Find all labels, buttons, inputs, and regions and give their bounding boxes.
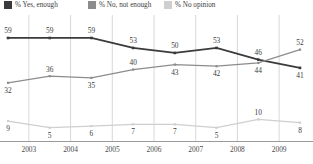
data-point-label: 9 xyxy=(6,124,10,133)
data-point-marker xyxy=(174,52,177,55)
data-point-marker xyxy=(49,75,51,77)
data-point-label: 36 xyxy=(46,65,54,74)
data-point-label: 42 xyxy=(213,69,221,78)
square-swatch-icon xyxy=(164,1,172,9)
data-point-marker xyxy=(7,37,10,40)
x-axis-tick-label: 2006 xyxy=(137,145,171,154)
data-point-label: 43 xyxy=(171,68,179,77)
data-point-marker xyxy=(215,127,217,129)
data-point-label: 46 xyxy=(255,48,263,57)
data-point-label: 5 xyxy=(215,131,219,140)
data-point-label: 44 xyxy=(255,66,263,75)
data-point-marker xyxy=(257,118,259,120)
data-point-marker xyxy=(215,65,217,67)
legend-label: % No, not enough xyxy=(99,1,151,9)
data-point-label: 59 xyxy=(88,26,96,35)
data-point-marker xyxy=(49,127,51,129)
data-point-marker xyxy=(90,37,93,40)
data-point-marker xyxy=(174,123,176,125)
x-axis-tick-label: 2008 xyxy=(220,145,254,154)
data-point-marker xyxy=(90,125,92,127)
x-axis-tick-label: 2005 xyxy=(95,145,129,154)
data-point-label: 35 xyxy=(88,81,96,90)
x-axis-tick-label: 2007 xyxy=(179,145,213,154)
square-swatch-icon xyxy=(4,1,12,9)
legend-item-yes-enough: % Yes, enough xyxy=(4,1,58,9)
data-point-label: 41 xyxy=(296,71,304,80)
data-point-label: 59 xyxy=(4,26,12,35)
data-point-marker xyxy=(132,68,134,70)
data-point-marker xyxy=(299,49,301,51)
data-point-marker xyxy=(7,82,9,84)
legend-label: % No opinion xyxy=(175,1,215,9)
x-axis-tick-label: 2003 xyxy=(12,145,46,154)
x-axis-labels: 2003200420052006200720082009 xyxy=(0,143,313,164)
data-point-label: 53 xyxy=(129,36,137,45)
data-point-label: 53 xyxy=(213,36,221,45)
x-axis-tick-label: 2009 xyxy=(262,145,296,154)
data-point-marker xyxy=(174,63,176,65)
data-point-label: 7 xyxy=(173,127,177,136)
data-point-marker xyxy=(90,77,92,79)
data-point-label: 7 xyxy=(131,127,135,136)
data-point-label: 59 xyxy=(46,26,54,35)
data-point-marker xyxy=(132,47,135,50)
data-point-marker xyxy=(215,47,218,50)
data-point-marker xyxy=(48,37,51,40)
legend-item-no-not-enough: % No, not enough xyxy=(88,1,151,9)
data-point-marker xyxy=(132,123,134,125)
data-point-label: 5 xyxy=(48,131,52,140)
data-point-marker xyxy=(7,120,9,122)
data-point-marker xyxy=(299,122,301,124)
data-point-label: 8 xyxy=(298,126,302,135)
plot-svg: 5959595350534641323635404342445295677510… xyxy=(0,15,313,142)
data-point-label: 10 xyxy=(255,108,263,117)
data-point-marker xyxy=(299,67,302,70)
data-point-label: 50 xyxy=(171,41,179,50)
legend-label: % Yes, enough xyxy=(15,1,58,9)
legend-item-no-opinion: % No opinion xyxy=(164,1,215,9)
data-point-label: 32 xyxy=(4,86,12,95)
line-chart: % Yes, enough % No, not enough % No opin… xyxy=(0,0,313,164)
square-swatch-icon xyxy=(88,1,96,9)
data-point-marker xyxy=(257,58,260,61)
data-point-label: 40 xyxy=(129,58,137,67)
plot-area: 5959595350534641323635404342445295677510… xyxy=(0,15,313,142)
data-point-label: 52 xyxy=(296,38,304,47)
data-point-marker xyxy=(257,62,259,64)
x-axis-tick-label: 2004 xyxy=(54,145,88,154)
chart-legend: % Yes, enough % No, not enough % No opin… xyxy=(0,0,313,15)
data-point-label: 6 xyxy=(90,129,94,138)
